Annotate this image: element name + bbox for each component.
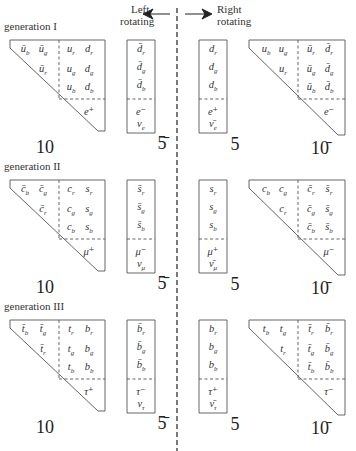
rep-label-10: 10 — [36, 137, 54, 158]
particle: s̄r — [326, 183, 333, 197]
particle: s̄b — [325, 221, 333, 235]
particle: ūr — [307, 43, 315, 57]
particle: bg — [85, 343, 94, 357]
generation-label: generation I — [4, 20, 57, 32]
particle: tb — [263, 323, 269, 337]
particle: c̄b — [21, 183, 29, 197]
rep-label-5: 5 — [231, 414, 240, 435]
rep-label-5bar: 5̄ — [158, 413, 167, 434]
particle: b̄g — [137, 341, 146, 355]
particle: d̄r — [325, 43, 333, 57]
rep-label-10: 10 — [36, 417, 54, 438]
arrow-left-icon — [143, 9, 170, 19]
generation-label: generation II — [4, 160, 61, 172]
particle: t̄g — [40, 323, 46, 337]
particle: c̄g — [307, 203, 315, 217]
particle: dr — [85, 43, 93, 57]
lepton: μ⁻ — [136, 245, 147, 257]
lepton: τ⁺ — [208, 385, 217, 397]
generation-label: generation III — [4, 300, 64, 312]
diagram-lines — [0, 0, 356, 451]
particle: ūb — [307, 81, 316, 95]
particle: tr — [280, 343, 286, 357]
lepton: τ⁻ — [136, 385, 145, 397]
neutrino: νμ — [137, 258, 145, 272]
particle: ūg — [307, 63, 316, 77]
particle: sg — [85, 203, 93, 217]
rep-label-10: 10 — [36, 277, 54, 298]
particle: tg — [68, 343, 74, 357]
particle: cr — [279, 203, 286, 217]
particle: cg — [279, 183, 287, 197]
particle: bb — [209, 359, 218, 373]
particle: sr — [210, 183, 217, 197]
particle: dg — [209, 61, 218, 75]
particle: tb — [68, 361, 74, 375]
particle: ūb — [21, 43, 30, 57]
particle: bb — [85, 361, 94, 375]
particle: br — [85, 323, 93, 337]
particle: c̄b — [307, 221, 315, 235]
particle: b̄r — [137, 323, 145, 337]
particle: d̄g — [325, 63, 334, 77]
particle: s̄g — [325, 203, 333, 217]
particle: sr — [86, 183, 93, 197]
neutrino: ντ — [137, 398, 144, 412]
particle: ub — [67, 81, 76, 95]
particle: ug — [67, 63, 76, 77]
particle: d̄g — [137, 61, 146, 75]
particle: ug — [279, 43, 288, 57]
particle: dg — [85, 63, 94, 77]
lepton: e⁻ — [324, 105, 334, 117]
particle: b̄r — [325, 323, 333, 337]
rep-label-5: 5 — [231, 274, 240, 295]
lepton: μ⁺ — [208, 245, 219, 257]
particle: cb — [262, 183, 270, 197]
particle: c̄g — [39, 183, 47, 197]
particle: d̄r — [137, 43, 145, 57]
lepton: μ⁺ — [84, 245, 95, 257]
particle: cb — [67, 221, 75, 235]
arrow-right-icon — [185, 9, 212, 19]
particle: c̄r — [39, 203, 46, 217]
particle: s̄g — [137, 201, 145, 215]
neutrino: ν̄e — [209, 118, 217, 132]
particle: b̄b — [325, 361, 334, 375]
particle: bg — [209, 341, 218, 355]
rep-label-10bar: 10̄ — [311, 418, 329, 439]
particle: ur — [279, 63, 287, 77]
particle: ūr — [39, 63, 47, 77]
particle: ub — [262, 43, 271, 57]
rep-label-5: 5 — [231, 134, 240, 155]
particle: d̄b — [137, 79, 146, 93]
lepton: e⁺ — [208, 105, 218, 117]
particle: br — [209, 323, 217, 337]
particle: cr — [67, 183, 74, 197]
particle: d̄b — [325, 81, 334, 95]
rep-label-10bar: 10̄ — [311, 138, 329, 159]
particle: sb — [85, 221, 93, 235]
rep-label-10bar: 10̄ — [311, 278, 329, 299]
lepton: e⁻ — [136, 105, 146, 117]
particle: t̄b — [22, 323, 28, 337]
neutrino: νe — [137, 118, 145, 132]
particle: tr — [68, 323, 74, 337]
particle: b̄g — [325, 343, 334, 357]
particle: dr — [209, 43, 217, 57]
lepton: e⁺ — [84, 105, 94, 117]
particle: b̄b — [137, 359, 146, 373]
lepton: μ⁻ — [324, 245, 335, 257]
particle: tg — [280, 323, 286, 337]
particle: s̄b — [137, 219, 145, 233]
particle: t̄r — [40, 343, 46, 357]
rep-label-5bar: 5̄ — [158, 133, 167, 154]
particle: s̄r — [138, 183, 145, 197]
rep-label-5bar: 5̄ — [158, 273, 167, 294]
lepton: τ⁺ — [84, 385, 93, 397]
lepton: τ⁻ — [324, 385, 333, 397]
particle: db — [209, 79, 218, 93]
particle: ur — [67, 43, 75, 57]
particle: t̄r — [308, 323, 314, 337]
neutrino: ν̄τ — [209, 398, 216, 412]
particle: cg — [67, 203, 75, 217]
